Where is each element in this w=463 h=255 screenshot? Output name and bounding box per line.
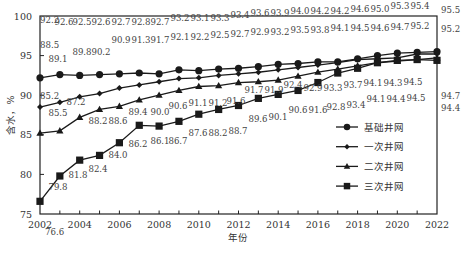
diamond-marker-icon [236, 71, 242, 77]
square-marker-icon [96, 152, 103, 159]
square-marker-icon [344, 183, 350, 189]
data-label: 95.3 [390, 1, 409, 11]
circle-marker-icon [36, 74, 43, 81]
line-chart: 含水，% 7580859095100 200220042006200820102… [0, 0, 463, 255]
data-label: 93.4 [230, 10, 250, 20]
circle-marker-icon [175, 66, 182, 73]
data-label: 91.6 [308, 105, 327, 115]
data-label: 81.8 [68, 170, 87, 180]
circle-marker-icon [275, 61, 282, 68]
data-label: 93.3 [210, 13, 229, 23]
data-label: 93.2 [170, 13, 189, 23]
data-label: 91.1 [188, 98, 207, 108]
diamond-marker-icon [275, 67, 281, 73]
data-label: 92.7 [150, 17, 169, 27]
diamond-marker-icon [216, 72, 222, 78]
data-label: 88.6 [108, 116, 127, 126]
circle-marker-icon [344, 124, 350, 130]
x-tick-label: 2006 [107, 219, 131, 230]
legend-item: 基础井网 [336, 122, 404, 133]
diamond-marker-icon [344, 144, 349, 149]
data-label: 86.7 [168, 136, 187, 146]
data-label: 90.2 [91, 47, 110, 57]
data-label: 94.3 [383, 78, 402, 88]
diamond-marker-icon [37, 104, 43, 110]
square-marker-icon [36, 198, 43, 205]
data-label: 79.8 [48, 182, 67, 192]
data-label: 94.2 [330, 6, 349, 16]
square-marker-icon [255, 95, 262, 102]
data-label: 86.2 [128, 139, 147, 149]
triangle-marker-icon [56, 127, 63, 133]
x-axis-label: 年份 [228, 232, 248, 243]
data-label: 94.0 [290, 6, 309, 16]
square-marker-icon [136, 122, 143, 129]
data-label: 89.6 [248, 114, 267, 124]
data-label: 85.5 [48, 108, 67, 118]
data-label: 76.6 [45, 227, 64, 237]
diamond-marker-icon [116, 85, 122, 91]
data-label: 92.6 [54, 17, 73, 27]
square-marker-icon [433, 57, 440, 64]
square-marker-icon [116, 139, 123, 146]
data-label: 86.1 [150, 136, 169, 146]
data-label: 95.0 [370, 4, 389, 14]
data-label: 91.9 [264, 85, 283, 95]
x-tick-label: 2012 [226, 219, 250, 230]
data-label: 92.9 [250, 27, 269, 37]
data-label: 92.8 [326, 102, 345, 112]
data-label: 92.4 [283, 80, 303, 90]
data-label: 94.4 [386, 94, 406, 104]
square-marker-icon [156, 122, 163, 129]
data-label: 95.4 [410, 1, 430, 11]
circle-marker-icon [195, 67, 202, 74]
x-tick-label: 2008 [147, 219, 171, 230]
data-label: 89.1 [48, 54, 67, 64]
legend-label: 三次井网 [364, 181, 404, 192]
data-label: 89.4 [128, 107, 148, 117]
y-tick-label: 90 [20, 90, 32, 101]
x-tick-label: 2020 [385, 219, 409, 230]
data-label: 84.0 [108, 150, 127, 160]
data-label: 94.7 [441, 91, 460, 101]
square-marker-icon [56, 172, 63, 179]
data-label: 92.7 [111, 17, 130, 27]
data-label: 94.2 [310, 6, 329, 16]
circle-marker-icon [76, 72, 83, 79]
data-label: 94.6 [370, 23, 389, 33]
data-label: 92.1 [170, 32, 189, 42]
data-label: 91.7 [244, 85, 263, 95]
data-label: 90.9 [111, 35, 130, 45]
data-label: 95.5 [441, 5, 460, 15]
circle-marker-icon [255, 63, 262, 70]
y-tick-label: 100 [14, 11, 32, 22]
data-label: 88.2 [208, 128, 227, 138]
y-axis-title: 含水，% [5, 95, 16, 134]
data-label: 92.5 [210, 30, 229, 40]
data-label: 92.8 [131, 17, 150, 27]
data-label: 91.3 [131, 35, 150, 45]
data-label: 89.8 [72, 47, 91, 57]
y-tick-label: 80 [20, 169, 32, 180]
legend-label: 基础井网 [364, 122, 404, 133]
data-label: 90.6 [288, 105, 307, 115]
data-label: 92.9 [303, 83, 322, 93]
data-label: 88.2 [88, 116, 107, 126]
data-label: 93.8 [310, 25, 329, 35]
diamond-marker-icon [176, 76, 182, 82]
circle-marker-icon [116, 70, 123, 77]
circle-marker-icon [235, 65, 242, 72]
circle-marker-icon [136, 69, 143, 76]
data-label: 93.3 [323, 83, 342, 93]
square-marker-icon [334, 69, 341, 76]
legend-label: 二次井网 [364, 161, 404, 172]
data-label: 93.9 [270, 8, 289, 18]
data-label: 92.5 [72, 17, 91, 27]
diamond-marker-icon [196, 75, 202, 81]
data-label: 94.4 [441, 103, 461, 113]
data-label: 91.7 [150, 35, 169, 45]
data-label: 94.1 [330, 23, 349, 33]
data-label: 92.6 [91, 17, 110, 27]
y-tick-label: 75 [20, 209, 32, 220]
data-label: 94.5 [350, 23, 369, 33]
